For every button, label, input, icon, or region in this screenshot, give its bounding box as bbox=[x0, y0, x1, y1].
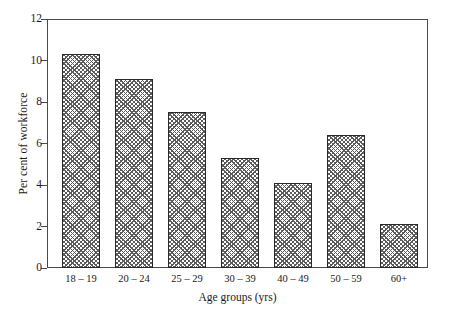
y-axis: 024681012 bbox=[0, 0, 47, 313]
y-axis-tick-label: 10 bbox=[9, 55, 47, 67]
x-axis-tick-label: 50 – 59 bbox=[320, 272, 373, 286]
y-axis-tick-label: 6 bbox=[9, 138, 47, 150]
x-axis-tick-label: 30 – 39 bbox=[214, 272, 267, 286]
x-axis-title: Age groups (yrs) bbox=[47, 290, 428, 304]
x-axis-tick-label: 25 – 29 bbox=[161, 272, 214, 286]
y-axis-tick-label: 2 bbox=[9, 221, 47, 233]
bar bbox=[62, 54, 100, 268]
x-axis-tick-label: 18 – 19 bbox=[55, 272, 108, 286]
bar bbox=[168, 112, 206, 268]
y-axis-tick-label: 8 bbox=[9, 96, 47, 108]
bar bbox=[380, 224, 418, 268]
y-axis-tick-label: 12 bbox=[9, 13, 47, 25]
bar bbox=[274, 183, 312, 268]
x-axis-tick-label: 60+ bbox=[373, 272, 426, 286]
x-axis-tick-labels: 18 – 1920 – 2425 – 2930 – 3940 – 4950 – … bbox=[47, 272, 428, 288]
bar bbox=[221, 158, 259, 268]
x-axis-tick-label: 20 – 24 bbox=[108, 272, 161, 286]
bar bbox=[115, 79, 153, 268]
y-axis-tick-label: 4 bbox=[9, 179, 47, 191]
bar-chart: Per cent of workforce 024681012 18 – 192… bbox=[0, 0, 454, 313]
bar bbox=[327, 135, 365, 268]
bars-group bbox=[47, 19, 428, 268]
y-axis-tick-label: 0 bbox=[9, 262, 47, 274]
x-axis-tick-label: 40 – 49 bbox=[267, 272, 320, 286]
